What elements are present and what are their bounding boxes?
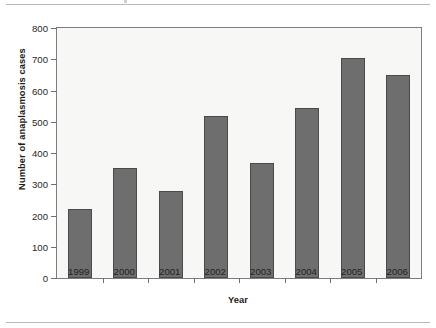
page-rule-bottom: [6, 322, 430, 323]
x-axis-tick: [239, 278, 240, 283]
y-axis-tick: [51, 59, 57, 60]
x-axis-tick: [103, 278, 104, 283]
x-axis-tick: [376, 278, 377, 283]
x-axis-tick: [330, 278, 331, 283]
x-axis-tick: [285, 278, 286, 283]
y-axis-tick: [51, 28, 57, 29]
x-axis-tick-label-2006: 2006: [387, 266, 408, 277]
x-axis-tick-label-2000: 2000: [114, 266, 135, 277]
y-axis-tick-label: 200: [32, 210, 48, 221]
bar-chart-figure: Number of anaplasmosis cases 01002003004…: [0, 10, 436, 322]
y-axis-tick: [51, 278, 57, 279]
bar-2005: [341, 58, 365, 278]
page-artifact-mark: [124, 0, 127, 3]
y-axis-title: Number of anaplasmosis cases: [17, 19, 27, 219]
x-axis-tick: [194, 278, 195, 283]
x-axis-tick: [148, 278, 149, 283]
bar-2001: [159, 191, 183, 278]
bar-2002: [204, 116, 228, 278]
x-axis-tick-label-2001: 2001: [159, 266, 180, 277]
y-axis-tick-label: 400: [32, 148, 48, 159]
y-axis-tick: [51, 216, 57, 217]
y-axis-tick-label: 300: [32, 179, 48, 190]
y-axis-tick: [51, 122, 57, 123]
y-axis-tick-label: 600: [32, 85, 48, 96]
bar-2006: [386, 75, 410, 278]
x-axis-title: Year: [56, 294, 420, 305]
bar-2000: [113, 168, 137, 278]
x-axis-tick-label-2004: 2004: [296, 266, 317, 277]
y-axis-tick: [51, 184, 57, 185]
y-axis-tick-label: 500: [32, 116, 48, 127]
y-axis-tick: [51, 153, 57, 154]
plot-area: 0100200300400500600700800: [56, 27, 422, 279]
y-axis-tick-label: 100: [32, 241, 48, 252]
bar-2003: [250, 163, 274, 278]
y-axis-tick-label: 800: [32, 23, 48, 34]
y-axis-tick-label: 0: [43, 273, 48, 284]
y-axis-tick-label: 700: [32, 54, 48, 65]
x-axis-tick-label-2005: 2005: [341, 266, 362, 277]
x-axis-tick-label-2003: 2003: [250, 266, 271, 277]
y-axis-tick: [51, 247, 57, 248]
x-axis-tick-label-1999: 1999: [68, 266, 89, 277]
y-axis-tick: [51, 91, 57, 92]
bar-2004: [295, 108, 319, 278]
x-axis-tick-label-2002: 2002: [205, 266, 226, 277]
page-rule-top: [6, 4, 430, 5]
